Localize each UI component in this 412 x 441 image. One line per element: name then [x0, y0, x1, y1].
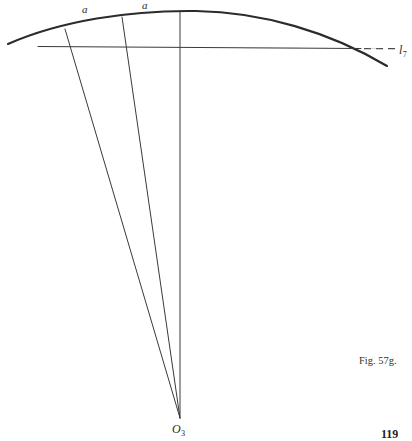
- main-arc: [8, 11, 387, 66]
- line-label-l7-subscript: 7: [402, 50, 406, 59]
- arc-segment-label-a1: a: [82, 4, 88, 15]
- figure-page: a a l7 O3 Fig. 57g. 119: [0, 0, 412, 441]
- radial-line-2: [122, 17, 180, 418]
- center-point-label-o3: O3: [172, 423, 185, 438]
- center-point-label-subscript: 3: [181, 429, 185, 438]
- figure-caption: Fig. 57g.: [359, 356, 397, 367]
- geometry-drawing: [0, 0, 412, 441]
- line-label-l7: l7: [399, 44, 407, 59]
- radial-line-1: [65, 29, 180, 418]
- arc-segment-label-a2: a: [142, 0, 148, 11]
- page-number: 119: [381, 428, 398, 441]
- chord-line-l7: [38, 47, 361, 49]
- center-point-label-letter: O: [172, 422, 181, 436]
